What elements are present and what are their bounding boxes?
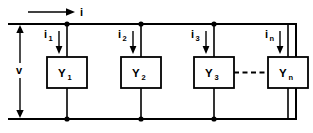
y2-current-arrow-head bbox=[130, 46, 137, 54]
y3-top-junction-dot bbox=[211, 21, 216, 26]
circuit-svg: i v Y 1 i 1 Y 2 bbox=[0, 0, 313, 133]
yn-box-label-subscript: n bbox=[289, 73, 294, 82]
y2-box-label: Y bbox=[132, 67, 140, 79]
branch-yn: Y n i n bbox=[265, 24, 308, 119]
y1-box-label-subscript: 1 bbox=[68, 73, 72, 82]
y1-top-junction-dot bbox=[64, 21, 69, 26]
branch-y3: Y 3 i 3 bbox=[191, 21, 234, 121]
y1-current-arrow-head bbox=[56, 46, 63, 54]
y3-bottom-junction-dot bbox=[211, 116, 216, 121]
yn-box-label: Y bbox=[279, 67, 287, 79]
y1-box-label: Y bbox=[58, 67, 66, 79]
y3-box-label-subscript: 3 bbox=[215, 73, 219, 82]
yn-current-label: i bbox=[265, 28, 268, 40]
y1-current-label-subscript: 1 bbox=[49, 34, 53, 43]
y2-top-junction-dot bbox=[138, 21, 143, 26]
y3-current-label-subscript: 3 bbox=[196, 34, 200, 43]
y3-box-label: Y bbox=[205, 67, 213, 79]
y3-current-arrow-head bbox=[203, 46, 210, 54]
y2-box-label-subscript: 2 bbox=[142, 73, 146, 82]
branch-y2: Y 2 i 2 bbox=[118, 21, 161, 121]
total-current-label: i bbox=[80, 6, 83, 18]
y1-bottom-junction-dot bbox=[64, 116, 69, 121]
yn-current-label-subscript: n bbox=[270, 34, 275, 43]
voltage-label: v bbox=[16, 64, 23, 76]
branch-y1: Y 1 i 1 bbox=[44, 21, 87, 121]
yn-current-arrow-head bbox=[277, 46, 284, 54]
parallel-admittance-diagram: i v Y 1 i 1 Y 2 bbox=[0, 0, 313, 133]
y3-current-label: i bbox=[191, 28, 194, 40]
total-current-arrow-head bbox=[66, 8, 75, 16]
voltage-arrow-down-head bbox=[16, 110, 23, 118]
y2-current-label-subscript: 2 bbox=[123, 34, 127, 43]
y2-current-label: i bbox=[118, 28, 121, 40]
y1-current-label: i bbox=[44, 28, 47, 40]
y2-bottom-junction-dot bbox=[138, 116, 143, 121]
voltage-arrow-up-head bbox=[16, 25, 23, 33]
